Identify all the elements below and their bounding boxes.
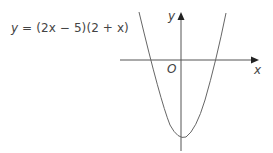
parabola-curve	[139, 12, 226, 138]
graph-canvas	[0, 0, 273, 153]
x-axis-label: x	[254, 63, 261, 77]
origin-label: O	[167, 62, 176, 76]
y-axis-label: y	[168, 9, 175, 23]
y-axis-arrow-icon	[178, 12, 185, 20]
